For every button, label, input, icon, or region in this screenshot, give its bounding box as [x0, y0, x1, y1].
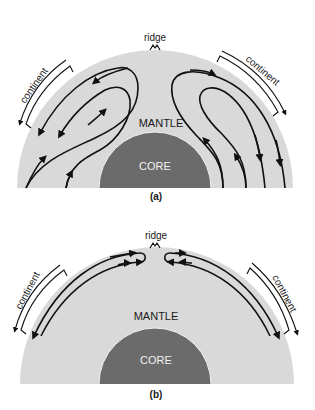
continent-label-a-left: continent — [18, 65, 50, 105]
ridge-mark-a — [150, 45, 160, 50]
core-label-a: CORE — [139, 160, 171, 172]
mantle-label-b: MANTLE — [134, 310, 179, 322]
ridge-label-a: ridge — [144, 32, 167, 43]
continent-label-b-right: continent — [270, 273, 299, 314]
core-label-b: CORE — [140, 354, 172, 366]
panel-b: ridge continent continent MANTLE CORE (b… — [13, 230, 299, 400]
continent-label-a-right: continent — [244, 53, 282, 88]
caption-a: (a) — [150, 191, 162, 202]
diagram-canvas: ridge continent continent MANTLE CORE (a… — [0, 0, 315, 410]
continent-label-b-left: continent — [13, 270, 42, 311]
caption-b: (b) — [150, 389, 163, 400]
panel-a: ridge continent continent MANTLE CORE (a… — [17, 32, 293, 202]
ridge-label-b: ridge — [145, 230, 168, 241]
flow-line-b-right-mid2 — [182, 262, 192, 263]
mantle-label-a: MANTLE — [139, 117, 184, 129]
